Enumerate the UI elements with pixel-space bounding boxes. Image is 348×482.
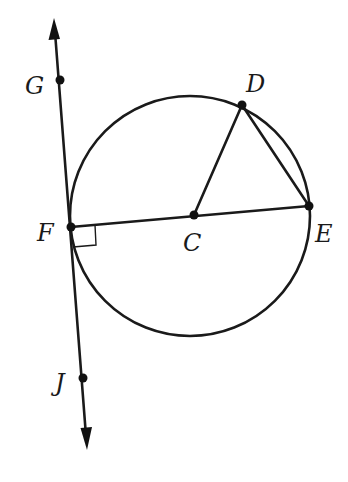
point-c: [190, 211, 199, 220]
geometry-diagram: G D F C E J: [0, 0, 348, 482]
label-j: J: [50, 369, 66, 397]
label-f: F: [36, 219, 55, 247]
right-angle-mark: [73, 225, 96, 247]
segment-cd: [194, 105, 242, 215]
point-g: [56, 76, 65, 85]
arrow-up-icon: [49, 18, 61, 40]
label-c: C: [183, 229, 201, 257]
label-d: D: [245, 70, 265, 98]
label-e: E: [314, 220, 333, 248]
point-j: [79, 374, 88, 383]
segment-de: [242, 105, 309, 206]
point-d: [238, 101, 247, 110]
point-f: [67, 223, 76, 232]
label-g: G: [25, 72, 44, 100]
point-e: [305, 202, 314, 211]
arrow-down-icon: [81, 427, 93, 450]
